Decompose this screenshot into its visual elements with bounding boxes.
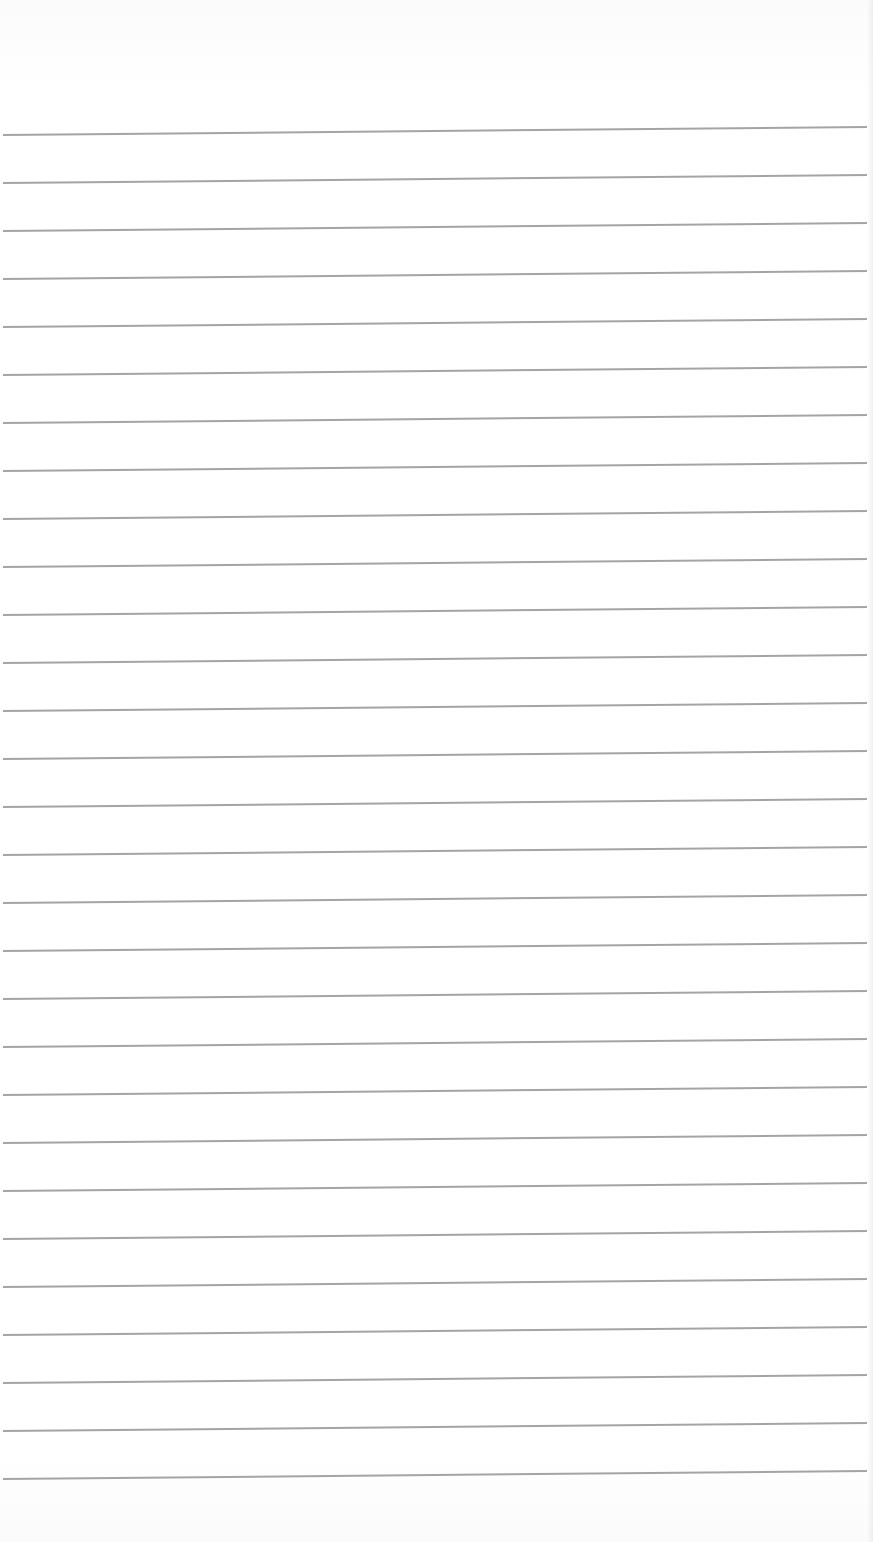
ruled-line — [3, 1038, 867, 1048]
ruled-line — [3, 270, 867, 280]
ruled-line — [3, 798, 867, 808]
ruled-line — [3, 558, 867, 568]
ruled-line — [3, 1470, 867, 1480]
ruled-line — [3, 846, 867, 856]
lined-paper-sheet — [0, 0, 873, 1542]
ruled-line — [3, 462, 867, 472]
ruled-line — [3, 414, 867, 424]
ruled-line — [3, 510, 867, 520]
ruled-line — [3, 1086, 867, 1096]
ruled-line — [3, 174, 867, 184]
ruled-line — [3, 702, 867, 712]
ruled-line — [3, 894, 867, 904]
ruled-line — [3, 750, 867, 760]
ruled-line — [3, 1326, 867, 1336]
ruled-line — [3, 1134, 867, 1144]
ruled-line — [3, 1374, 867, 1384]
ruled-line — [3, 990, 867, 1000]
ruled-line — [3, 318, 867, 328]
ruled-line — [3, 126, 867, 136]
ruled-line — [3, 1422, 867, 1432]
ruled-line — [3, 366, 867, 376]
ruled-line — [3, 1182, 867, 1192]
ruled-line — [3, 606, 867, 616]
ruled-line — [3, 222, 867, 232]
ruled-line — [3, 942, 867, 952]
paper-edge-shadow — [867, 0, 873, 1542]
ruled-line — [3, 654, 867, 664]
ruled-line — [3, 1230, 867, 1240]
ruled-lines — [0, 0, 873, 1542]
ruled-line — [3, 1278, 867, 1288]
